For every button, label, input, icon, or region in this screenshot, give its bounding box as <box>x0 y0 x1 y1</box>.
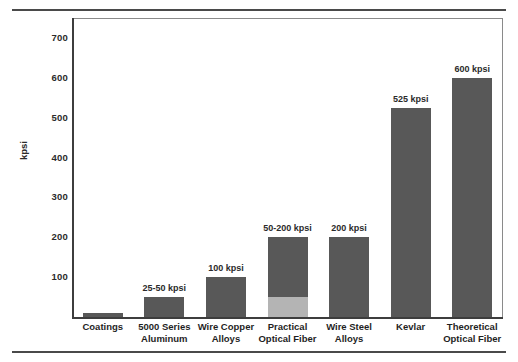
x-axis-category-labels: Coatings5000 SeriesAluminumWire CopperAl… <box>72 321 503 351</box>
y-tick-label: 600 <box>22 72 68 83</box>
bar[interactable] <box>83 313 123 317</box>
bar-group[interactable]: 100 kpsi <box>198 18 254 317</box>
bar[interactable] <box>268 237 308 317</box>
y-tick-label: 200 <box>22 231 68 242</box>
bars-layer: 25-50 kpsi100 kpsi50-200 kpsi200 kpsi525… <box>72 18 503 318</box>
category-label-line: Theoretical <box>434 321 510 333</box>
bar-value-label: 600 kpsi <box>434 64 510 74</box>
bar-group[interactable] <box>75 18 131 317</box>
y-axis-title: kpsi <box>18 141 29 160</box>
bar-segment <box>268 237 308 297</box>
category-label-line: Alloys <box>311 333 387 345</box>
bar-segment <box>83 313 123 317</box>
bar-group[interactable]: 50-200 kpsi <box>260 18 316 317</box>
bar[interactable] <box>206 277 246 317</box>
category-label-line: Optical Fiber <box>434 333 510 345</box>
bar-chart-figure: 100200300400500600700 kpsi 25-50 kpsi100… <box>0 0 518 362</box>
bar-segment <box>206 277 246 317</box>
bar-value-label: 25-50 kpsi <box>126 283 202 293</box>
bar-value-label: 525 kpsi <box>373 94 449 104</box>
bar-segment <box>329 237 369 317</box>
top-horizontal-rule <box>12 9 506 11</box>
bar-group[interactable]: 25-50 kpsi <box>136 18 192 317</box>
bar-segment <box>144 297 184 317</box>
bar[interactable] <box>329 237 369 317</box>
bar-group[interactable]: 600 kpsi <box>444 18 500 317</box>
bar[interactable] <box>391 108 431 317</box>
bar-group[interactable]: 525 kpsi <box>383 18 439 317</box>
y-tick-label: 700 <box>22 32 68 43</box>
bar-group[interactable]: 200 kpsi <box>321 18 377 317</box>
bar-value-label: 200 kpsi <box>311 223 387 233</box>
y-tick-label: 300 <box>22 191 68 202</box>
bar[interactable] <box>144 297 184 317</box>
bar-value-label: 100 kpsi <box>188 263 264 273</box>
y-tick-label: 500 <box>22 112 68 123</box>
bar-segment <box>391 108 431 317</box>
bar-segment <box>452 78 492 317</box>
y-tick-label: 100 <box>22 271 68 282</box>
y-axis-tick-labels: 100200300400500600700 <box>12 0 68 362</box>
bar[interactable] <box>452 78 492 317</box>
bottom-horizontal-rule <box>12 351 506 353</box>
category-label: TheoreticalOptical Fiber <box>434 321 510 344</box>
bar-segment <box>268 297 308 317</box>
